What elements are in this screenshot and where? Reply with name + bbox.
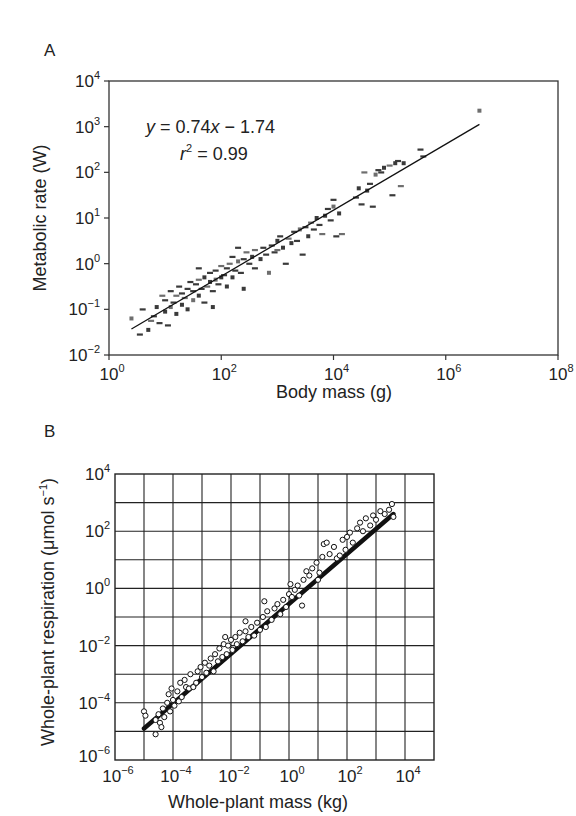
data-point	[229, 256, 235, 258]
data-point	[361, 171, 367, 173]
data-point	[417, 149, 423, 151]
data-point	[281, 246, 285, 250]
data-point	[325, 208, 331, 210]
data-point	[242, 287, 246, 291]
data-point	[260, 614, 265, 619]
data-point	[168, 709, 173, 714]
data-point	[300, 254, 306, 256]
panel-a-x-tick-label: 108	[548, 362, 573, 384]
data-point	[343, 547, 348, 552]
panel-b-y-tick-label: 10−4	[79, 691, 110, 713]
panel-b-chart: B 10−610−410−2100102104 10−610−410−21001…	[37, 422, 434, 812]
data-point	[217, 646, 222, 651]
data-point	[299, 603, 304, 608]
data-point	[162, 299, 168, 301]
data-point	[188, 672, 193, 677]
data-point	[327, 551, 332, 556]
data-point	[227, 263, 233, 265]
data-point	[389, 194, 395, 196]
data-point	[215, 283, 221, 285]
data-point	[262, 599, 267, 604]
panel-b-y-tick-label: 104	[85, 462, 110, 484]
data-point	[198, 664, 203, 669]
data-point	[153, 732, 158, 737]
data-point	[191, 298, 195, 302]
data-point	[208, 656, 213, 661]
data-point	[175, 689, 180, 694]
data-point	[233, 634, 238, 639]
data-point	[347, 530, 352, 535]
data-point	[272, 251, 278, 253]
panel-a-data-points	[129, 109, 481, 336]
data-point	[269, 617, 274, 622]
data-point	[283, 263, 289, 265]
data-point	[211, 669, 216, 674]
data-point	[174, 312, 178, 316]
panel-b-label: B	[44, 422, 55, 441]
data-point	[284, 604, 289, 609]
data-point	[382, 511, 387, 516]
data-point	[255, 620, 260, 625]
data-point	[265, 609, 270, 614]
data-point	[370, 206, 376, 208]
data-point	[180, 303, 184, 307]
data-point	[140, 308, 146, 310]
data-point	[156, 712, 161, 717]
data-point	[357, 186, 361, 190]
data-point	[202, 275, 206, 279]
data-point	[331, 544, 336, 549]
data-point	[367, 183, 373, 185]
panel-b-x-tick-label: 10−4	[160, 764, 191, 786]
data-point	[172, 703, 177, 708]
data-point	[263, 624, 268, 629]
data-point	[278, 612, 283, 617]
data-point	[382, 166, 386, 170]
data-point	[337, 211, 341, 215]
data-point	[387, 164, 393, 166]
data-point	[249, 624, 254, 629]
data-point	[160, 706, 165, 711]
data-point	[166, 692, 171, 697]
data-point	[157, 322, 163, 324]
panel-a-regression-equation: y = 0.74x − 1.74	[144, 117, 275, 137]
data-point	[237, 630, 242, 635]
data-point	[159, 725, 164, 730]
data-point	[238, 272, 244, 274]
data-point	[398, 185, 404, 187]
data-point	[359, 203, 365, 205]
panel-b-y-axis-label: Whole-plant respiration (μmol s−1)	[37, 478, 58, 746]
panel-a-y-tick-label: 10−2	[69, 343, 100, 365]
data-point	[165, 324, 171, 326]
panel-b-y-axis-ticks: 10−610−410−2100102104	[79, 462, 110, 766]
data-point	[165, 700, 170, 705]
data-point	[375, 169, 381, 171]
data-point	[243, 619, 248, 624]
data-point	[311, 228, 317, 230]
data-point	[185, 288, 191, 290]
panel-a-x-tick-label: 102	[212, 362, 237, 384]
data-point	[310, 566, 315, 571]
data-point	[252, 249, 258, 251]
data-point	[236, 259, 240, 263]
data-point	[201, 301, 207, 303]
data-point	[218, 265, 224, 267]
data-point	[315, 577, 320, 582]
data-point	[260, 247, 266, 249]
data-point	[235, 247, 241, 249]
data-point	[324, 540, 329, 545]
data-point	[350, 540, 355, 545]
panel-a-y-tick-label: 100	[75, 252, 100, 274]
panel-b-x-tick-label: 102	[337, 764, 362, 786]
data-point	[243, 629, 248, 634]
panel-b-x-axis-ticks: 10−610−410−2100102104	[102, 764, 420, 786]
panel-b-x-tick-label: 10−2	[218, 764, 249, 786]
data-point	[244, 251, 250, 253]
panel-b-y-tick-label: 10−6	[79, 744, 110, 766]
data-point	[146, 328, 150, 332]
data-point	[241, 258, 247, 260]
data-point	[295, 583, 300, 588]
data-point	[213, 270, 219, 272]
data-point	[263, 254, 269, 256]
data-point	[288, 582, 293, 587]
data-point	[259, 257, 263, 261]
